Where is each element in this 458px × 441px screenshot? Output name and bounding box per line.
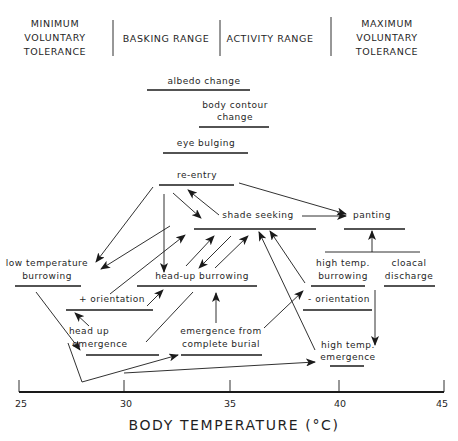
arrow — [215, 236, 248, 268]
svg-text:burrowing: burrowing — [22, 271, 72, 281]
zone-activity: ACTIVITY RANGE — [226, 33, 313, 44]
behavior-head-up-emergence: head up emergence — [69, 326, 159, 355]
behavior-diagram: MINIMUM VOLUNTARY TOLERANCE BASKING RANG… — [0, 0, 458, 441]
svg-text:discharge: discharge — [385, 271, 433, 281]
tick-label: 45 — [436, 398, 448, 409]
arrow — [36, 292, 80, 350]
zone-min-line2: VOLUNTARY — [24, 32, 85, 43]
svg-text:body contour: body contour — [202, 100, 268, 110]
arrow — [188, 190, 219, 215]
zone-max-line2: VOLUNTARY — [356, 32, 417, 43]
arrow — [75, 313, 89, 326]
zone-max-line1: MAXIMUM — [361, 18, 413, 29]
svg-text:change: change — [217, 112, 253, 122]
arrow — [186, 236, 214, 266]
arrow — [110, 235, 185, 294]
svg-text:head-up burrowing: head-up burrowing — [155, 271, 249, 281]
svg-text:head up: head up — [69, 326, 109, 336]
behavior-panting: panting — [344, 210, 405, 229]
zone-max-line3: TOLERANCE — [355, 46, 418, 57]
svg-text:eye bulging: eye bulging — [177, 138, 235, 148]
behavior-eye-bulging: eye bulging — [163, 138, 248, 153]
svg-text:shade seeking: shade seeking — [222, 210, 293, 220]
behavior-minus-orientation: - orientation — [303, 294, 372, 310]
tick-label: 30 — [120, 398, 132, 409]
behavior-emergence-from-complete-burial: emergence from complete burial — [180, 326, 262, 355]
tick-label: 35 — [224, 398, 236, 409]
arrow — [124, 362, 315, 373]
svg-text:low temperature: low temperature — [6, 258, 88, 268]
svg-text:+ orientation: + orientation — [79, 294, 145, 304]
svg-text:emergence from: emergence from — [180, 326, 262, 336]
zone-min-line1: MINIMUM — [31, 18, 79, 29]
zone-min-line3: TOLERANCE — [23, 46, 86, 57]
behavior-head-up-burrowing: head-up burrowing — [137, 271, 257, 286]
svg-text:re-entry: re-entry — [177, 170, 217, 180]
zone-basking: BASKING RANGE — [123, 33, 210, 44]
arrow — [264, 291, 303, 328]
svg-text:high temp.: high temp. — [316, 258, 370, 268]
arrow — [101, 226, 170, 269]
svg-text:emergence: emergence — [72, 339, 127, 349]
arrow — [270, 231, 305, 283]
svg-text:panting: panting — [353, 210, 391, 220]
svg-text:high temp.: high temp. — [321, 340, 375, 350]
svg-text:- orientation: - orientation — [308, 294, 370, 304]
behavior-albedo-change: albedo change — [147, 76, 250, 90]
behavior-shade-seeking: shade seeking — [194, 210, 316, 229]
header-zones: MINIMUM VOLUNTARY TOLERANCE BASKING RANG… — [23, 17, 418, 57]
x-axis: 25 30 35 40 45 BODY TEMPERATURE (°C) — [15, 380, 448, 433]
behavior-high-temp-burrowing: high temp. burrowing — [311, 258, 370, 286]
behaviors: albedo change body contour change eye bu… — [6, 76, 435, 366]
tick-label: 40 — [334, 398, 346, 409]
svg-text:complete burial: complete burial — [182, 339, 260, 349]
arrow — [96, 187, 153, 262]
svg-text:cloacal: cloacal — [392, 258, 427, 268]
arrow — [259, 232, 315, 350]
behavior-low-temperature-burrowing: low temperature burrowing — [6, 258, 88, 286]
behavior-cloacal-discharge: cloacal discharge — [384, 258, 435, 286]
axis-title: BODY TEMPERATURE (°C) — [129, 417, 340, 433]
behavior-body-contour-change: body contour change — [199, 100, 269, 127]
behavior-plus-orientation: + orientation — [66, 294, 153, 310]
arrow — [199, 236, 231, 268]
svg-text:burrowing: burrowing — [318, 271, 368, 281]
svg-text:emergence: emergence — [320, 352, 375, 362]
behavior-high-temp-emergence: high temp. emergence — [320, 340, 375, 366]
svg-text:albedo change: albedo change — [168, 76, 241, 86]
behavior-re-entry: re-entry — [159, 170, 234, 185]
tick-label: 25 — [15, 398, 27, 409]
arrow — [147, 290, 163, 306]
